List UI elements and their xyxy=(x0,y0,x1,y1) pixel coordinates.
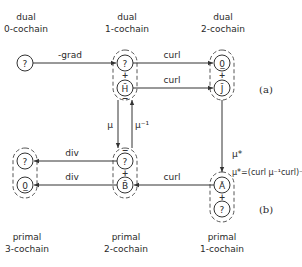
edge-label-mu-star-def: μ*=(curl μ⁻¹curl)⁻¹ xyxy=(232,168,302,177)
node-dual1-top-label: ? xyxy=(123,59,128,69)
node-dual2-top-label: 0̲ xyxy=(219,59,226,69)
node-primal3-bottom: 0̲ xyxy=(17,177,33,193)
edge-label-curl-mid: curl xyxy=(164,75,181,85)
label-dual-0-line2: 0-cochain xyxy=(4,24,48,34)
edge-label-curl-bottom: curl xyxy=(164,172,181,182)
node-dual2-bottom: J̄ xyxy=(214,80,230,96)
node-primal3-top-label: ? xyxy=(23,157,28,167)
label-primal-1-line2: 1-cochain xyxy=(200,244,244,254)
node-dual1-bottom-label: H̄ xyxy=(122,83,129,94)
edge-label-div-top: div xyxy=(65,148,79,158)
edge-label-mu: μ xyxy=(107,120,113,130)
node-primal3-top: ? xyxy=(17,153,33,169)
plus-sign-dual1: + xyxy=(122,71,129,80)
label-dual-1-line2: 1-cochain xyxy=(105,24,149,34)
node-primal1-bottom-label: ? xyxy=(220,205,225,215)
node-dual0: ? xyxy=(17,55,33,71)
label-primal-2-line2: 2-cochain xyxy=(104,244,148,254)
label-primal-1-line1: primal xyxy=(208,232,237,242)
node-primal1-top: Ā xyxy=(214,177,230,193)
node-primal2-top: ? xyxy=(117,153,133,169)
label-primal-2-line1: primal xyxy=(112,232,141,242)
label-primal-3-line1: primal xyxy=(13,232,42,242)
node-primal1-top-label: Ā xyxy=(219,181,226,191)
label-dual-1-line1: dual xyxy=(117,12,136,22)
label-primal-3-line2: 3-cochain xyxy=(5,244,49,254)
node-primal2-bottom: B̄ xyxy=(117,177,133,193)
node-dual1-top: ? xyxy=(117,55,133,71)
edge-label-grad: -grad xyxy=(58,50,82,60)
edge-label-div-bottom: div xyxy=(65,172,79,182)
edge-label-mu-star: μ* xyxy=(232,149,243,159)
node-dual2-top: 0̲ xyxy=(214,55,230,71)
edge-label-curl-top: curl xyxy=(164,50,181,60)
label-dual-0-line1: dual xyxy=(16,12,35,22)
minus-sign-dual1: − xyxy=(122,94,129,103)
label-dual-2-line2: 2-cochain xyxy=(201,24,245,34)
node-primal2-bottom-label: B̄ xyxy=(122,180,128,191)
edge-label-mu-inv: μ⁻¹ xyxy=(135,120,149,130)
plus-sign-dual2: + xyxy=(219,71,226,80)
node-dual0-label: ? xyxy=(23,59,28,69)
cochain-diagram: dual 0-cochain dual 1-cochain dual 2-coc… xyxy=(0,0,302,267)
node-primal2-top-label: ? xyxy=(123,157,128,167)
label-dual-2-line1: dual xyxy=(213,12,232,22)
tag-a: (a) xyxy=(259,84,273,95)
tag-b: (b) xyxy=(259,204,273,215)
node-primal1-bottom: ? xyxy=(214,201,230,217)
node-primal3-bottom-label: 0̲ xyxy=(22,181,29,191)
